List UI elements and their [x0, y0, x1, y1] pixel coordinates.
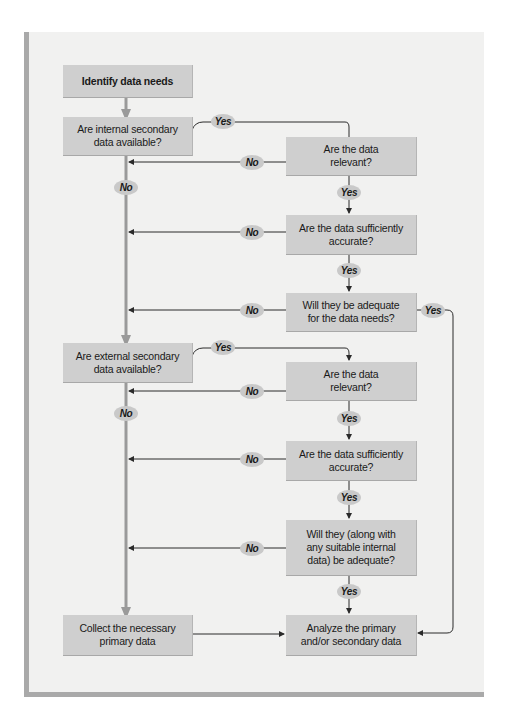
node-internal-adequate: Will they be adequate for the data needs… — [286, 293, 417, 332]
label-adequate1-yes: Yes — [421, 303, 445, 318]
node-external-available: Are external secondary data available? — [63, 343, 193, 383]
label-internal-yes: Yes — [211, 114, 235, 129]
node-internal-relevant: Are the data relevant? — [286, 137, 417, 176]
label-accurate1-yes: Yes — [337, 263, 361, 278]
label-relevant2-yes: Yes — [337, 411, 361, 426]
label-accurate2-yes: Yes — [337, 490, 361, 505]
label-adequate1-no: No — [240, 303, 264, 318]
label-external-no: No — [114, 406, 138, 421]
label-external-yes: Yes — [211, 340, 235, 355]
node-internal-available: Are internal secondary data available? — [63, 117, 193, 156]
node-external-relevant: Are the data relevant? — [286, 362, 417, 401]
label-relevant1-yes: Yes — [337, 185, 361, 200]
node-analyze: Analyze the primary and/or secondary dat… — [286, 615, 417, 656]
label-adequate3-no: No — [240, 541, 264, 556]
edge-adequate1-yes — [416, 310, 453, 633]
label-accurate2-no: No — [240, 452, 264, 467]
label-relevant2-no: No — [240, 384, 264, 399]
label-relevant1-no: No — [240, 155, 264, 170]
node-collect-primary: Collect the necessary primary data — [63, 615, 193, 656]
label-accurate1-no: No — [240, 225, 264, 240]
node-external-accurate: Are the data sufficiently accurate? — [286, 441, 417, 481]
label-adequate3-yes: Yes — [337, 584, 361, 599]
label-internal-no: No — [114, 180, 138, 195]
node-identify-data-needs: Identify data needs — [63, 65, 193, 98]
node-external-adequate: Will they (along with any suitable inter… — [286, 520, 417, 576]
node-internal-accurate: Are the data sufficiently accurate? — [286, 215, 417, 255]
